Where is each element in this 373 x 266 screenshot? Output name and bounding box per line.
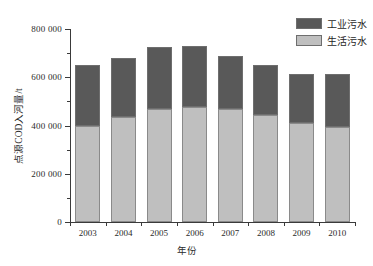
x-axis-tick-label: 2009	[293, 228, 311, 238]
x-axis-tick-label: 2003	[79, 228, 97, 238]
x-axis-tick-mark	[106, 222, 107, 226]
x-axis-tick-label: 2006	[186, 228, 204, 238]
x-axis-tick-label: 2004	[114, 228, 132, 238]
bar-segment-domestic[interactable]	[182, 107, 207, 222]
y-axis-tick-label: 200 000	[31, 169, 62, 179]
bar-segment-industrial[interactable]	[111, 58, 136, 117]
bar-segment-domestic[interactable]	[289, 123, 314, 222]
x-axis-tick-mark	[355, 222, 356, 226]
x-axis-tick-label: 2005	[150, 228, 168, 238]
y-axis-minor-tick-mark	[67, 101, 70, 102]
y-axis-minor-tick-mark	[67, 198, 70, 199]
bar-group[interactable]	[253, 29, 278, 222]
x-axis-tick-label: 2007	[221, 228, 239, 238]
y-axis-tick-mark	[65, 174, 70, 175]
y-axis-tick-label: 400 000	[31, 121, 62, 131]
bar-group[interactable]	[111, 29, 136, 222]
x-axis-tick-mark	[213, 222, 214, 226]
bar-segment-industrial[interactable]	[147, 47, 172, 109]
chart-figure: 0200 000400 000600 000800 000 2003200420…	[0, 0, 373, 266]
bar-group[interactable]	[325, 29, 350, 222]
y-axis-tick-mark	[65, 77, 70, 78]
chart-legend: 工业污水生活污水	[296, 16, 367, 48]
legend-item[interactable]: 工业污水	[296, 16, 367, 31]
x-axis-tick-mark	[141, 222, 142, 226]
bar-series-container	[70, 29, 355, 222]
y-axis-tick-label: 600 000	[31, 72, 62, 82]
legend-label: 生活污水	[327, 33, 367, 48]
bar-group[interactable]	[218, 29, 243, 222]
y-axis-spine	[70, 29, 71, 223]
bar-segment-industrial[interactable]	[289, 74, 314, 123]
x-axis-tick-label: 2010	[328, 228, 346, 238]
bar-segment-industrial[interactable]	[75, 65, 100, 125]
bar-group[interactable]	[75, 29, 100, 222]
bar-segment-domestic[interactable]	[75, 126, 100, 223]
bar-segment-domestic[interactable]	[253, 115, 278, 222]
bar-segment-domestic[interactable]	[218, 109, 243, 222]
y-axis-minor-tick-mark	[67, 150, 70, 151]
bar-segment-industrial[interactable]	[218, 56, 243, 110]
plot-area	[70, 29, 355, 222]
x-axis-tick-mark	[319, 222, 320, 226]
bar-group[interactable]	[182, 29, 207, 222]
bar-group[interactable]	[289, 29, 314, 222]
y-axis-tick-label: 800 000	[31, 24, 62, 34]
bar-segment-industrial[interactable]	[325, 74, 350, 127]
x-axis-tick-label: 2008	[257, 228, 275, 238]
x-axis-tick-mark	[284, 222, 285, 226]
y-axis-minor-tick-mark	[67, 53, 70, 54]
y-axis-tick-mark	[65, 126, 70, 127]
y-axis-title: 点源COD入河量/t	[11, 88, 25, 163]
legend-item[interactable]: 生活污水	[296, 33, 367, 48]
legend-label: 工业污水	[327, 16, 367, 31]
bar-group[interactable]	[147, 29, 172, 222]
bar-segment-industrial[interactable]	[182, 46, 207, 107]
bar-segment-domestic[interactable]	[325, 127, 350, 222]
x-axis-tick-mark	[248, 222, 249, 226]
legend-swatch	[296, 18, 322, 29]
bar-segment-industrial[interactable]	[253, 65, 278, 114]
x-axis-title: 年份	[0, 243, 373, 257]
x-axis-tick-mark	[177, 222, 178, 226]
bar-segment-domestic[interactable]	[147, 109, 172, 222]
y-axis-tick-mark	[65, 29, 70, 30]
x-axis-tick-mark	[70, 222, 71, 226]
y-axis-tick-label: 0	[57, 217, 62, 227]
bar-segment-domestic[interactable]	[111, 117, 136, 222]
legend-swatch	[296, 35, 322, 46]
